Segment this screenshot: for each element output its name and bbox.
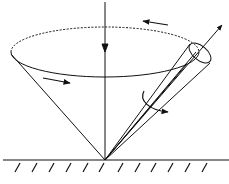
spin-axis-arrow xyxy=(105,25,222,160)
precession-arrow-back xyxy=(143,21,168,25)
precession-arrow-front xyxy=(43,78,70,83)
spinning-top xyxy=(105,39,214,160)
precession-cone xyxy=(11,54,186,160)
vertical-axis xyxy=(102,2,108,160)
down-arrow-icon xyxy=(102,44,108,52)
ground xyxy=(3,160,229,172)
precession-diagram xyxy=(0,0,229,184)
